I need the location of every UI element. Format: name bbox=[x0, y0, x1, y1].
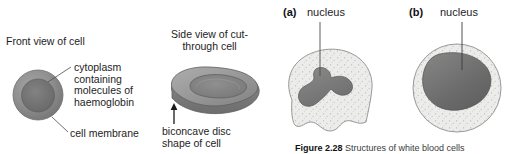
wbc-b-tag: (b) bbox=[409, 6, 423, 18]
blood-cell-figure: Front view of cell cytoplasm containing … bbox=[0, 0, 525, 154]
white-blood-cell-a bbox=[289, 49, 372, 131]
biconcave-arrow-icon bbox=[171, 103, 178, 124]
figure-caption: Figure 2.28 Structures of white blood ce… bbox=[295, 143, 465, 153]
wbc-b-nucleus-label: nucleus bbox=[440, 6, 478, 18]
figure-caption-number: Figure 2.28 bbox=[295, 143, 343, 153]
cytoplasm-core bbox=[22, 79, 55, 112]
wbc-a-nucleus-label: nucleus bbox=[307, 6, 345, 18]
wbc-a-tag: (a) bbox=[283, 6, 296, 18]
white-blood-cell-b bbox=[413, 44, 501, 132]
side-view-heading: Side view of cut- through cell bbox=[171, 29, 248, 52]
figure-caption-text: Structures of white blood cells bbox=[343, 143, 465, 153]
red-blood-cell-side-view bbox=[171, 67, 259, 114]
cell-membrane-leader-line bbox=[52, 117, 68, 132]
biconcave-disc-label: biconcave disc shape of cell bbox=[162, 126, 231, 149]
figure-artwork bbox=[0, 0, 525, 154]
